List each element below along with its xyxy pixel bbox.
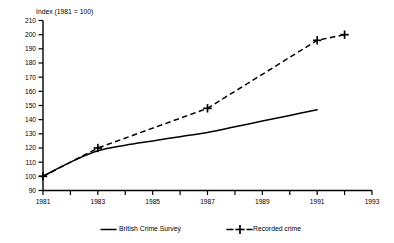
y-tick-label: 140 — [25, 116, 36, 123]
y-tick-label: 180 — [25, 59, 36, 66]
y-tick-label: 150 — [25, 102, 36, 109]
legend-label-recorded-crime: Recorded crime — [253, 225, 301, 232]
y-tick-label: 170 — [25, 74, 36, 81]
x-tick-label: 1983 — [90, 198, 105, 205]
y-axis-title-group: Index (1981 = 100) — [36, 8, 93, 16]
y-tick-label: 120 — [25, 144, 36, 151]
y-tick-label: 100 — [25, 173, 36, 180]
y-axis-ticks: 90100110120130140150160170180190200210 — [25, 17, 43, 194]
series-recorded-crime-markers — [39, 30, 349, 180]
y-tick-label: 210 — [25, 17, 36, 24]
x-tick-label: 1993 — [365, 198, 380, 205]
chart-legend: British Crime Survey Recorded crime — [101, 225, 301, 234]
x-tick-label: 1991 — [310, 198, 325, 205]
x-tick-label: 1985 — [145, 198, 160, 205]
y-tick-label: 90 — [29, 187, 37, 194]
legend-swatch-dashed — [227, 225, 252, 234]
chart-svg: Index (1981 = 100) 901001101201301401501… — [0, 0, 394, 243]
y-tick-label: 110 — [25, 159, 36, 166]
legend-label-british-crime-survey: British Crime Survey — [119, 225, 182, 233]
series-british-crime-survey-line — [43, 110, 317, 177]
x-tick-label: 1981 — [36, 198, 51, 205]
x-tick-label: 1989 — [255, 198, 270, 205]
y-axis-title: Index (1981 = 100) — [36, 8, 93, 16]
y-tick-label: 190 — [25, 45, 36, 52]
x-tick-label: 1987 — [200, 198, 215, 205]
y-tick-label: 160 — [25, 88, 36, 95]
crime-index-line-chart: Index (1981 = 100) 901001101201301401501… — [0, 0, 394, 243]
y-tick-label: 200 — [25, 31, 36, 38]
x-axis-ticks: 1981198319851987198919911993 — [36, 191, 380, 205]
y-tick-label: 130 — [25, 130, 36, 137]
